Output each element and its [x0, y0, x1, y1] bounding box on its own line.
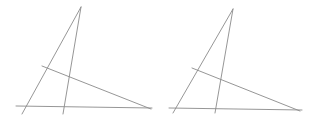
transversal-line [192, 68, 300, 111]
transversal-line [42, 66, 151, 109]
diagram-canvas [0, 0, 316, 120]
right-figure [169, 9, 302, 113]
baseline-line [16, 106, 152, 108]
baseline-line [169, 108, 302, 110]
left-figure [16, 7, 152, 114]
